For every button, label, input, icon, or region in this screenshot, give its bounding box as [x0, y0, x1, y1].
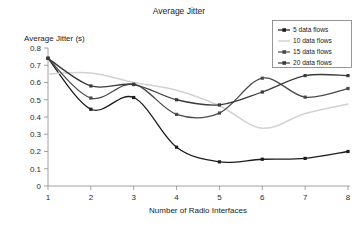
data-series	[48, 73, 348, 129]
data-point-marker	[46, 57, 49, 60]
series-line	[48, 73, 348, 129]
data-point-marker	[346, 87, 349, 90]
legend-swatch-marker	[282, 61, 286, 65]
legend-swatch-marker	[282, 28, 286, 32]
average-jitter-chart: Average Jitter Average Jitter (s) Number…	[0, 0, 359, 227]
data-point-marker	[175, 113, 178, 116]
x-tick-label: 2	[89, 193, 94, 202]
x-axis-label: Number of Radio Interfaces	[149, 206, 247, 215]
data-point-marker	[89, 108, 92, 111]
chart-legend: 5 data flows10 data flows15 data flows20…	[273, 21, 352, 68]
data-point-marker	[132, 96, 135, 99]
data-point-marker	[346, 150, 349, 153]
legend-item-label: 20 data flows	[293, 59, 333, 66]
x-tick-label: 8	[346, 193, 351, 202]
data-series-group	[46, 57, 349, 164]
y-tick-label: 0.8	[30, 44, 42, 53]
data-point-marker	[304, 74, 307, 77]
y-axis-ticks: 00.10.20.30.40.50.60.70.8	[30, 44, 48, 191]
x-tick-label: 6	[260, 193, 265, 202]
y-tick-label: 0.4	[30, 113, 42, 122]
y-tick-label: 0.6	[30, 78, 42, 87]
data-point-marker	[89, 96, 92, 99]
data-point-marker	[261, 90, 264, 93]
y-axis-label: Average Jitter (s)	[24, 34, 85, 43]
data-point-marker	[89, 84, 92, 87]
y-tick-label: 0.7	[30, 61, 42, 70]
y-tick-label: 0.5	[30, 96, 42, 105]
x-tick-label: 3	[131, 193, 136, 202]
legend-item-label: 15 data flows	[293, 48, 333, 55]
legend-item-label: 10 data flows	[293, 37, 333, 44]
x-tick-label: 7	[303, 193, 308, 202]
x-tick-label: 5	[217, 193, 222, 202]
y-tick-label: 0.3	[30, 130, 42, 139]
data-point-marker	[218, 160, 221, 163]
data-point-marker	[175, 98, 178, 101]
y-tick-label: 0	[37, 182, 42, 191]
data-point-marker	[175, 146, 178, 149]
x-tick-label: 4	[174, 193, 179, 202]
legend-item-label: 5 data flows	[293, 26, 329, 33]
data-point-marker	[304, 96, 307, 99]
y-tick-label: 0.1	[30, 165, 42, 174]
data-point-marker	[304, 157, 307, 160]
data-point-marker	[132, 83, 135, 86]
y-tick-label: 0.2	[30, 147, 42, 156]
data-point-marker	[218, 111, 221, 114]
data-point-marker	[218, 103, 221, 106]
chart-title: Average Jitter	[153, 6, 205, 16]
x-axis-ticks: 12345678	[46, 186, 351, 202]
data-point-marker	[261, 77, 264, 80]
legend-swatch-marker	[282, 50, 286, 54]
x-tick-label: 1	[46, 193, 51, 202]
data-point-marker	[261, 158, 264, 161]
data-point-marker	[346, 74, 349, 77]
chart-canvas: Average Jitter Average Jitter (s) Number…	[0, 0, 359, 227]
